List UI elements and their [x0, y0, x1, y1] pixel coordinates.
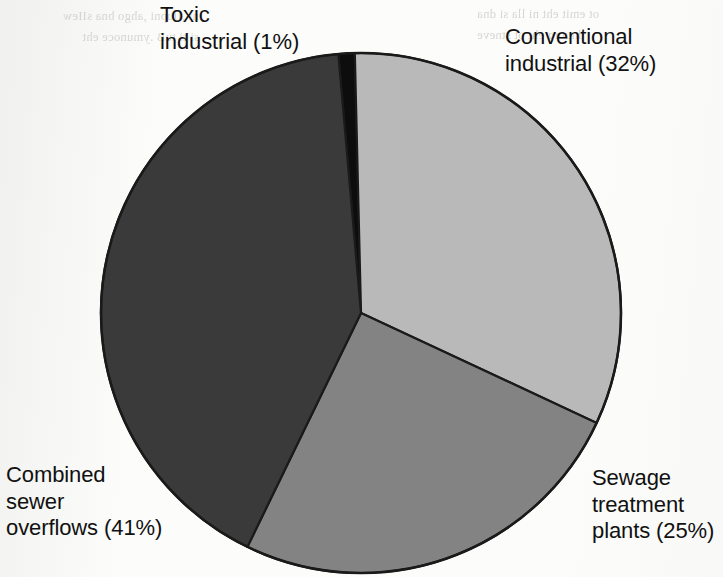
- pie-label-toxic-industrial: Toxic industrial (1%): [160, 2, 299, 55]
- pie-label-combined-sewer-overflows: Combined sewer overflows (41%): [6, 462, 162, 542]
- pie-label-conventional-industrial: Conventional industrial (32%): [505, 24, 656, 77]
- pie-slice-group: [101, 53, 621, 573]
- pie-label-sewage-treatment-plants: Sewage treatment plants (25%): [592, 465, 714, 545]
- pie-chart-figure: Toxic industrial (1%) Conventional indus…: [0, 0, 723, 577]
